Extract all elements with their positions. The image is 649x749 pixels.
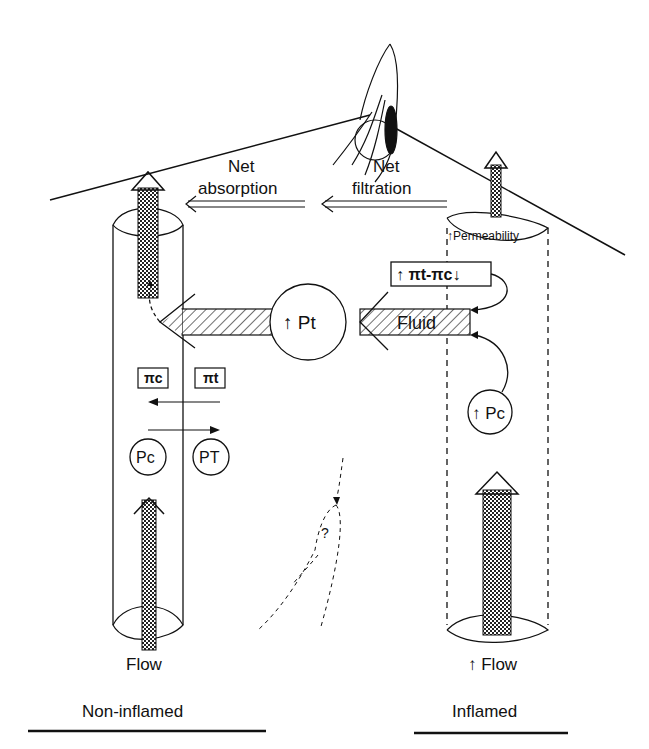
fluid-label: Fluid bbox=[397, 313, 436, 333]
net-absorption-label-2: absorption bbox=[198, 179, 277, 198]
inflamed-capillary-pressure-label: ↑ Pc bbox=[472, 404, 506, 423]
diagram-canvas: Net absorption Net filtration ↑Permeabil… bbox=[0, 0, 649, 749]
net-filtration-label-2: filtration bbox=[352, 179, 412, 198]
non-inflamed-vessel bbox=[113, 172, 183, 650]
net-absorption-label-1: Net bbox=[228, 157, 255, 176]
pi-t-label: πt bbox=[203, 370, 219, 386]
question-mark: ? bbox=[321, 525, 329, 541]
tissue-pressure-label: ↑ Pt bbox=[283, 312, 316, 333]
inflamed-label: Inflamed bbox=[452, 702, 517, 721]
flow-left-label: Flow bbox=[126, 655, 163, 674]
permeability-label: ↑Permeability bbox=[447, 229, 519, 243]
tissue-hydrostatic-label: PT bbox=[199, 449, 220, 466]
capillary-pressure-label: Pc bbox=[136, 449, 155, 466]
net-flow-arrows bbox=[186, 196, 447, 212]
oncotic-gradient-label: ↑ πt-πc↓ bbox=[396, 266, 461, 283]
flow-right-label: ↑ Flow bbox=[468, 655, 518, 674]
tissue-pressure-arrow bbox=[147, 280, 274, 348]
net-filtration-label-1: Net bbox=[373, 157, 400, 176]
fluid-arrow: Fluid bbox=[360, 292, 470, 350]
pi-c-label: πc bbox=[144, 370, 163, 386]
lymphatic-dashed-icon bbox=[258, 458, 343, 630]
non-inflamed-label: Non-inflamed bbox=[82, 702, 183, 721]
